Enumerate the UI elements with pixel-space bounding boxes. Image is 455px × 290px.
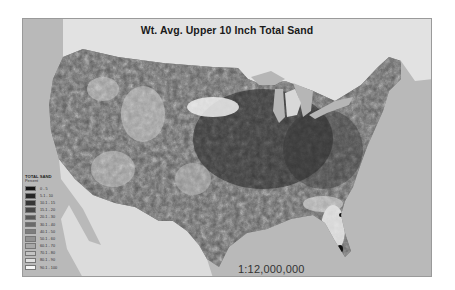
map-frame: Wt. Avg. Upper 10 Inch Total Sand TOTAL … [22, 18, 432, 277]
map-scale: 1:12,000,000 [238, 263, 305, 275]
legend-label: 5.1 - 10 [40, 194, 53, 198]
legend-row: 30.1 - 40 [25, 221, 69, 228]
legend-swatch [25, 207, 36, 213]
legend-row: 0 - 5 [25, 185, 69, 192]
legend-label: 15.1 - 20 [40, 208, 55, 212]
legend-row: 80.1 - 90 [25, 257, 69, 264]
legend-swatch [25, 229, 36, 235]
legend-label: 40.1 - 50 [40, 230, 55, 234]
legend-swatch [25, 222, 36, 228]
legend-row: 50.1 - 60 [25, 235, 69, 242]
legend-row: 20.1 - 30 [25, 214, 69, 221]
legend-label: 0 - 5 [40, 187, 48, 191]
legend-label: 10.1 - 15 [40, 201, 55, 205]
legend-swatch [25, 200, 36, 206]
legend-row: 10.1 - 15 [25, 199, 69, 206]
legend-row: 60.1 - 70 [25, 243, 69, 250]
legend-swatch [25, 236, 36, 242]
legend-swatch [25, 265, 36, 271]
legend-label: 30.1 - 40 [40, 223, 55, 227]
legend-label: 50.1 - 60 [40, 237, 55, 241]
legend-row: 70.1 - 80 [25, 250, 69, 257]
legend-swatch [25, 215, 36, 221]
sand-map-canvas [23, 19, 432, 277]
legend-label: 70.1 - 80 [40, 251, 55, 255]
legend-row: 90.1 - 100 [25, 264, 69, 271]
legend-swatch [25, 251, 36, 257]
legend-classes: 0 - 5 5.1 - 10 10.1 - 15 15.1 - 20 20.1 … [25, 185, 69, 271]
legend-label: 20.1 - 30 [40, 215, 55, 219]
legend-subtitle: Percent [25, 179, 69, 184]
legend-row: 40.1 - 50 [25, 228, 69, 235]
legend-row: 15.1 - 20 [25, 207, 69, 214]
map-title: Wt. Avg. Upper 10 Inch Total Sand [23, 24, 431, 36]
legend-label: 60.1 - 70 [40, 244, 55, 248]
legend-label: 90.1 - 100 [40, 266, 57, 270]
legend-swatch [25, 258, 36, 264]
legend-swatch [25, 193, 36, 199]
legend-label: 80.1 - 90 [40, 258, 55, 262]
legend-row: 5.1 - 10 [25, 192, 69, 199]
legend-swatch [25, 186, 36, 192]
legend-swatch [25, 243, 36, 249]
legend: TOTAL SAND Percent 0 - 5 5.1 - 10 10.1 -… [25, 174, 69, 271]
